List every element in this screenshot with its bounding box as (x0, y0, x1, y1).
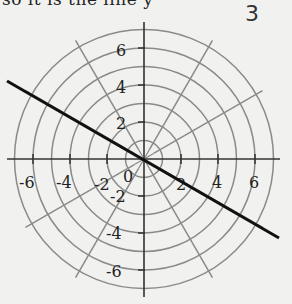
x-tick-label: -4 (56, 173, 72, 192)
grid-radial-line (76, 40, 139, 149)
grid-radial-line (150, 40, 213, 149)
y-tick-label: -4 (106, 224, 122, 243)
y-tick-label: 4 (116, 78, 126, 97)
x-tick-label: 0 (123, 167, 133, 186)
x-tick-label: -2 (94, 175, 110, 194)
grid-radial-line (154, 91, 263, 154)
x-tick-label: 6 (249, 173, 259, 192)
polar-grid-diagram: -6 -4 -2 0 2 4 6 6 4 2 -2 -4 -6 (0, 0, 292, 304)
x-tick-label: -6 (19, 173, 35, 192)
x-tick-label: 4 (212, 173, 222, 192)
y-tick-label: -2 (110, 187, 126, 206)
y-tick-label: -6 (106, 262, 122, 281)
y-tick-label: 2 (116, 114, 126, 133)
y-tick-label: 6 (116, 41, 126, 60)
